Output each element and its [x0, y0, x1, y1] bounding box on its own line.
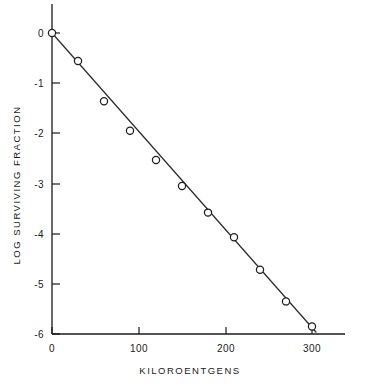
y-axis-title: LOG SURVIVING FRACTION: [11, 106, 22, 265]
y-tick-label-5: -5: [34, 279, 44, 290]
data-point: [256, 266, 263, 273]
x-axis-title: KILOROENTGENS: [139, 365, 240, 376]
chart-figure: 0 -1 -2 -3 -4 -5 -6 0 100 200 300 KILORO…: [0, 0, 374, 386]
data-point: [152, 156, 159, 163]
y-tick-label-6: -6: [34, 329, 44, 340]
x-tick-label-200: 200: [217, 343, 235, 354]
data-point: [126, 127, 133, 134]
data-point: [48, 29, 55, 36]
data-point: [204, 209, 211, 216]
data-point: [178, 182, 185, 189]
x-tick-label-300: 300: [303, 343, 321, 354]
x-tick-label-100: 100: [130, 343, 148, 354]
y-tick-label-2: -2: [34, 128, 44, 139]
chart-background: [0, 0, 374, 386]
data-point: [230, 234, 237, 241]
y-tick-label-1: -1: [34, 78, 44, 89]
data-point: [100, 98, 107, 105]
y-tick-label-0: 0: [38, 28, 44, 39]
data-point: [308, 323, 315, 330]
x-tick-label-0: 0: [49, 343, 55, 354]
y-tick-label-4: -4: [34, 229, 44, 240]
data-point: [74, 57, 81, 64]
data-point: [282, 298, 289, 305]
y-tick-label-3: -3: [34, 179, 44, 190]
